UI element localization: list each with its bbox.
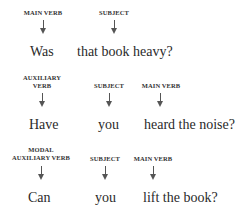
label-main-verb: MAIN VERB [139,82,183,90]
phrase-lift-the-book: lift the book? [143,190,218,206]
word-can: Can [28,190,51,206]
label-line: VERB [20,82,64,90]
label-line: MODAL [8,146,74,154]
label-subject: SUBJECT [85,155,125,163]
label-main-verb: MAIN VERB [131,155,175,163]
label-subject: SUBJECT [94,9,134,17]
word-have: Have [29,117,59,133]
word-you: you [95,190,116,206]
label-line: AUXILIARY [20,74,64,82]
label-main-verb: MAIN VERB [22,9,64,17]
word-was: Was [30,44,54,60]
word-you: you [98,117,119,133]
phrase-that-book-heavy: that book heavy? [77,44,173,60]
label-auxiliary-verb: AUXILIARY VERB [20,74,64,90]
label-modal-auxiliary-verb: MODAL AUXILIARY VERB [8,146,74,162]
phrase-heard-the-noise: heard the noise? [144,117,235,133]
label-line: AUXILIARY VERB [8,154,74,162]
label-subject: SUBJECT [89,82,129,90]
